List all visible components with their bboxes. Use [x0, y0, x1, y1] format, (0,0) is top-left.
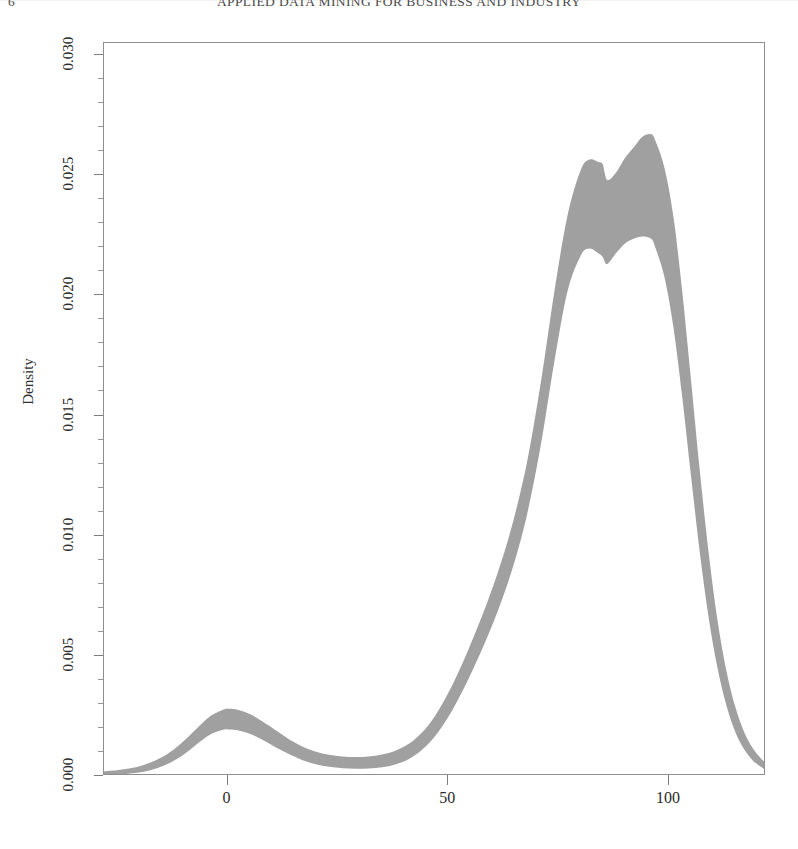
y-axis-tick-label: 0.015	[60, 379, 77, 449]
y-axis-minor-tick	[98, 270, 103, 271]
y-axis-minor-tick	[98, 318, 103, 319]
x-axis-tick-label: 50	[417, 789, 477, 807]
y-axis-minor-tick	[98, 342, 103, 343]
plot-frame	[103, 42, 765, 775]
x-axis-tick-mark	[227, 775, 228, 785]
y-axis-tick-label: 0.005	[60, 619, 77, 689]
y-axis-minor-tick	[98, 607, 103, 608]
x-axis-tick-label: 100	[638, 789, 698, 807]
x-axis-tick-mark	[447, 775, 448, 785]
y-axis-tick-mark	[94, 775, 103, 776]
y-axis-minor-tick	[98, 439, 103, 440]
y-axis-tick-mark	[94, 655, 103, 656]
y-axis-minor-tick	[98, 703, 103, 704]
y-axis-minor-tick	[98, 583, 103, 584]
y-axis-tick-label: 0.020	[60, 259, 77, 329]
y-axis-minor-tick	[98, 559, 103, 560]
y-axis-tick-mark	[94, 415, 103, 416]
y-axis-minor-tick	[98, 727, 103, 728]
y-axis-tick-mark	[94, 294, 103, 295]
y-axis-minor-tick	[98, 246, 103, 247]
y-axis-tick-label: 0.000	[60, 740, 77, 810]
y-axis-tick-mark	[94, 535, 103, 536]
y-axis-minor-tick	[98, 78, 103, 79]
y-axis-minor-tick	[98, 222, 103, 223]
y-axis-minor-tick	[98, 126, 103, 127]
y-axis-minor-tick	[98, 390, 103, 391]
y-axis-tick-label: 0.010	[60, 499, 77, 569]
y-axis-tick-mark	[94, 54, 103, 55]
y-axis-tick-label: 0.030	[60, 19, 77, 89]
y-axis-minor-tick	[98, 511, 103, 512]
y-axis-minor-tick	[98, 198, 103, 199]
y-axis-tick-mark	[94, 174, 103, 175]
y-axis-title: Density	[20, 332, 37, 432]
x-axis-tick-mark	[668, 775, 669, 785]
y-axis-minor-tick	[98, 102, 103, 103]
confidence-band-area	[104, 134, 765, 775]
y-axis-tick-label: 0.025	[60, 139, 77, 209]
y-axis-minor-tick	[98, 751, 103, 752]
y-axis-minor-tick	[98, 487, 103, 488]
y-axis-minor-tick	[98, 150, 103, 151]
density-band-figure: Density 0.0000.0050.0100.0150.0200.0250.…	[0, 0, 798, 849]
y-axis-minor-tick	[98, 366, 103, 367]
x-axis-tick-label: 0	[197, 789, 257, 807]
density-band-plot	[104, 43, 765, 775]
y-axis-minor-tick	[98, 631, 103, 632]
y-axis-minor-tick	[98, 679, 103, 680]
y-axis-minor-tick	[98, 463, 103, 464]
